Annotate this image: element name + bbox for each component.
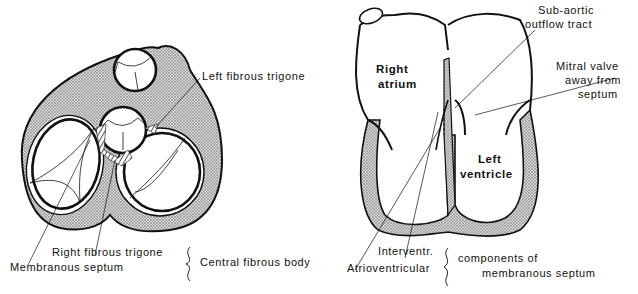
label-interventr: Interventr.: [378, 245, 434, 258]
label-left-ventricle-1: Left: [478, 153, 501, 166]
label-mitral-3: septum: [578, 88, 618, 101]
label-components-2: membranous septum: [482, 267, 596, 280]
label-right-atrium-1: Right: [376, 63, 408, 76]
label-right-atrium-2: atrium: [378, 78, 417, 91]
label-mitral-1: Mitral valve: [556, 60, 619, 73]
label-membranous-septum: Membranous septum: [10, 261, 124, 274]
label-atrioventricular: Atrioventricular: [347, 262, 430, 275]
label-left-ventricle-2: ventricle: [460, 168, 513, 181]
label-right-fibrous-trigone: Right fibrous trigone: [52, 246, 163, 259]
label-sub-aortic-2: outflow tract: [525, 18, 592, 31]
label-components-1: components of: [458, 252, 538, 265]
label-central-fibrous-body: Central fibrous body: [200, 256, 310, 269]
pulmonary-valve: [114, 49, 156, 91]
brace-central-fibrous-body: [186, 247, 190, 281]
four-chamber-figure: [355, 5, 615, 286]
brace-membranous-septum: [444, 248, 448, 286]
label-mitral-2: away from: [565, 74, 621, 87]
label-left-fibrous-trigone: Left fibrous trigone: [202, 70, 305, 83]
label-sub-aortic-1: Sub-aortic: [538, 4, 594, 17]
